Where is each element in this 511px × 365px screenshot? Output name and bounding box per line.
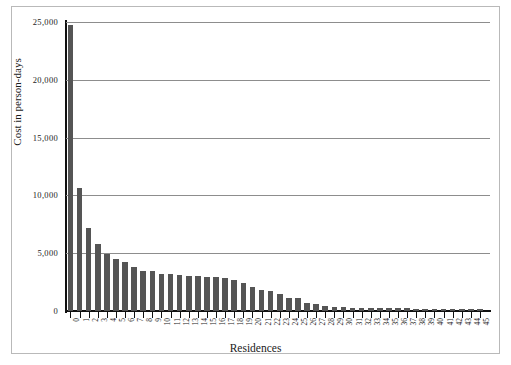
bar [250,287,256,311]
bar [468,309,474,311]
x-axis-title: Residences [0,342,511,354]
bar [286,298,292,311]
bar [113,259,119,311]
x-axis-tick-label: 35 [392,318,400,326]
gridline [66,253,490,254]
x-axis-tick-label: 5 [119,318,127,322]
bar [395,308,401,311]
x-axis-tick-label: 3 [101,318,109,322]
bar [386,308,392,311]
bar [313,304,319,311]
bar [222,278,228,311]
x-axis-tick-label: 41 [447,318,455,326]
bar [404,308,410,311]
y-axis-tick-label: 0 [53,306,58,316]
x-axis-tick-label: 36 [401,318,409,326]
x-axis-tick-label: 19 [246,318,254,326]
x-axis-tick-label: 18 [237,318,245,326]
bar [122,262,128,311]
bar [377,308,383,311]
x-axis-tick-label: 33 [374,318,382,326]
y-axis-tick-labels: 05,00010,00015,00020,00025,000 [0,0,58,365]
bar [131,267,137,312]
x-axis-tick-label: 10 [164,318,172,326]
x-axis-tick-label: 27 [319,318,327,326]
bar [368,308,374,311]
x-axis-tick-label: 40 [437,318,445,326]
x-axis-tick-label: 34 [383,318,391,326]
x-axis-tick-label: 0 [73,318,81,322]
gridline [66,22,490,23]
bar [168,274,174,311]
bar [140,271,146,311]
bar [177,275,183,311]
bar [150,271,156,311]
x-axis-tick-label: 12 [183,318,191,326]
x-axis-tick-labels: 0123456789101112131415161718192021222324… [66,318,490,340]
bar [259,290,265,311]
x-axis-tick-label: 26 [310,318,318,326]
bar [95,244,101,311]
x-axis-tick-label: 39 [428,318,436,326]
x-axis-tick-label: 45 [483,318,491,326]
gridline [66,80,490,81]
y-axis-tick-label: 20,000 [33,75,58,85]
bar [104,254,110,311]
y-axis-tick-label: 10,000 [33,190,58,200]
bar [277,294,283,311]
x-axis-tick-label: 17 [228,318,236,326]
bar [459,309,465,311]
x-axis-tick-label: 7 [137,318,145,322]
x-axis-tick-label: 15 [210,318,218,326]
bar [322,306,328,311]
bar [350,308,356,311]
bar [477,309,483,311]
x-axis-tick-label: 4 [110,318,118,322]
x-axis-tick-label: 44 [474,318,482,326]
x-axis-tick-label: 14 [201,318,209,326]
x-axis-tick-label: 43 [465,318,473,326]
gridline [66,138,490,139]
x-axis-tick-label: 1 [83,318,91,322]
bar [68,25,74,311]
bar [159,274,165,311]
bar [213,277,219,311]
x-axis-tick-label: 9 [155,318,163,322]
x-axis-tick-label: 32 [365,318,373,326]
x-axis-tick-label: 22 [274,318,282,326]
x-axis-tick-label: 29 [337,318,345,326]
x-axis-tick-label: 31 [356,318,364,326]
bar [450,309,456,311]
bar [341,307,347,311]
y-axis-tick-label: 25,000 [33,17,58,27]
bar [241,283,247,311]
x-axis-tick-label: 6 [128,318,136,322]
bar [268,291,274,311]
bar [432,309,438,311]
x-axis-tick-label: 16 [219,318,227,326]
bar [295,298,301,311]
bar [359,308,365,311]
plot-area [66,22,490,311]
x-axis-tick-label: 2 [92,318,100,322]
bar [422,309,428,311]
x-axis-tick-label: 28 [328,318,336,326]
bar [231,280,237,311]
x-axis-tick-label: 20 [255,318,263,326]
x-axis-tick-label: 24 [292,318,300,326]
x-axis-tick-label: 8 [146,318,154,322]
x-axis-tick-label: 11 [174,318,182,325]
x-axis-tick-label: 30 [346,318,354,326]
gridline [66,195,490,196]
x-axis-tick-label: 23 [283,318,291,326]
bar [304,303,310,311]
x-axis-tick-label: 37 [410,318,418,326]
y-axis-tick-label: 15,000 [33,133,58,143]
bar [413,309,419,311]
x-axis-tick-label: 38 [419,318,427,326]
bar [77,188,83,311]
x-axis-tick-label: 42 [456,318,464,326]
bar [195,276,201,311]
bar [441,309,447,311]
x-axis-tick-label: 21 [265,318,273,326]
